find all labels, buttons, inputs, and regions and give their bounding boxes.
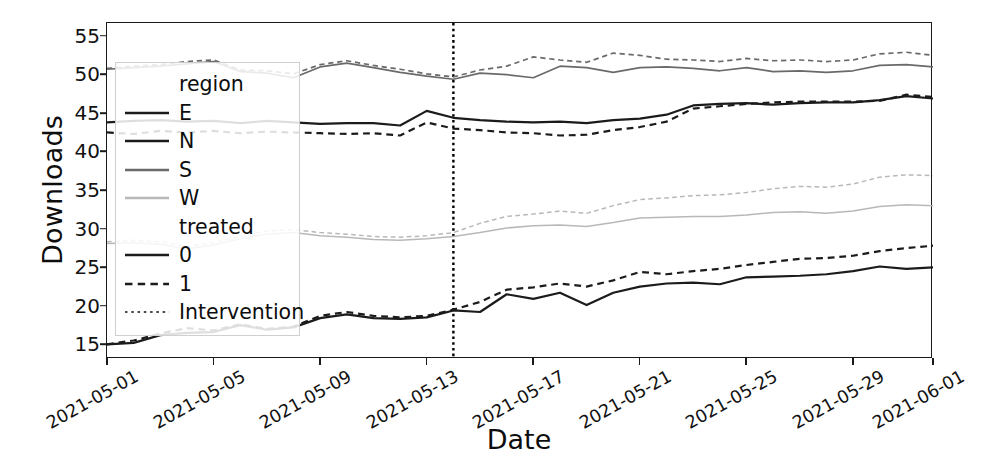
x-tick-mark bbox=[745, 358, 747, 365]
y-tick-label: 25 bbox=[42, 255, 100, 279]
x-tick-label: 2021-05-13 bbox=[363, 366, 462, 433]
x-tick-label: 2021-05-01 bbox=[43, 366, 142, 433]
y-tick-label: 35 bbox=[42, 178, 100, 202]
legend-group-title-label: region bbox=[124, 72, 244, 96]
x-tick-mark bbox=[532, 358, 534, 365]
x-tick-label: 2021-05-25 bbox=[683, 366, 782, 433]
chart-figure: Downloads 152025303540455055 2021-05-012… bbox=[0, 0, 986, 468]
legend-entry: N bbox=[124, 127, 291, 156]
x-tick-label: 2021-05-17 bbox=[469, 366, 568, 433]
legend-swatch-icon bbox=[124, 106, 170, 120]
y-tick-label: 45 bbox=[42, 101, 100, 125]
legend-entry: 0 bbox=[124, 241, 291, 270]
legend-swatch-icon bbox=[124, 134, 170, 148]
y-tick-label: 30 bbox=[42, 217, 100, 241]
legend-entry: E bbox=[124, 99, 291, 128]
x-axis-label: Date bbox=[106, 424, 932, 455]
legend-swatch-icon bbox=[124, 163, 170, 177]
legend-entry-label: 1 bbox=[179, 272, 192, 296]
y-tick-label: 20 bbox=[42, 294, 100, 318]
legend-group-title: region bbox=[124, 70, 291, 99]
legend-entry-label: Intervention bbox=[179, 300, 304, 324]
x-tick-mark bbox=[106, 358, 108, 365]
legend-entry: S bbox=[124, 156, 291, 185]
x-tick-label: 2021-05-05 bbox=[150, 366, 249, 433]
legend-entry-label: N bbox=[179, 129, 194, 153]
x-tick-mark bbox=[639, 358, 641, 365]
x-tick-mark bbox=[852, 358, 854, 365]
legend-group-title: treated bbox=[124, 213, 291, 242]
legend-entry: W bbox=[124, 184, 291, 213]
legend-group-title-label: treated bbox=[124, 215, 254, 239]
legend-entry-label: 0 bbox=[179, 243, 192, 267]
y-tick-label-layer: 152025303540455055 bbox=[36, 22, 100, 358]
x-tick-label: 2021-05-09 bbox=[256, 366, 355, 433]
x-tick-mark bbox=[932, 358, 934, 365]
legend-entry-label: S bbox=[179, 158, 192, 182]
legend-entry-label: W bbox=[179, 186, 199, 210]
y-tick-label: 40 bbox=[42, 139, 100, 163]
x-tick-mark bbox=[426, 358, 428, 365]
legend-entry: 1 bbox=[124, 270, 291, 299]
legend-swatch-icon bbox=[124, 305, 170, 319]
x-tick-mark bbox=[213, 358, 215, 365]
x-tick-mark bbox=[319, 358, 321, 365]
legend-entry-label: E bbox=[179, 101, 192, 125]
legend-swatch-icon bbox=[124, 277, 170, 291]
y-tick-label: 15 bbox=[42, 332, 100, 356]
legend-entry: Intervention bbox=[124, 298, 291, 327]
y-tick-label: 50 bbox=[42, 62, 100, 86]
legend-swatch-icon bbox=[124, 248, 170, 262]
legend-swatch-icon bbox=[124, 191, 170, 205]
chart-legend: regionENSWtreated01Intervention bbox=[115, 62, 300, 336]
y-tick-label: 55 bbox=[42, 24, 100, 48]
x-tick-label: 2021-05-21 bbox=[576, 366, 675, 433]
